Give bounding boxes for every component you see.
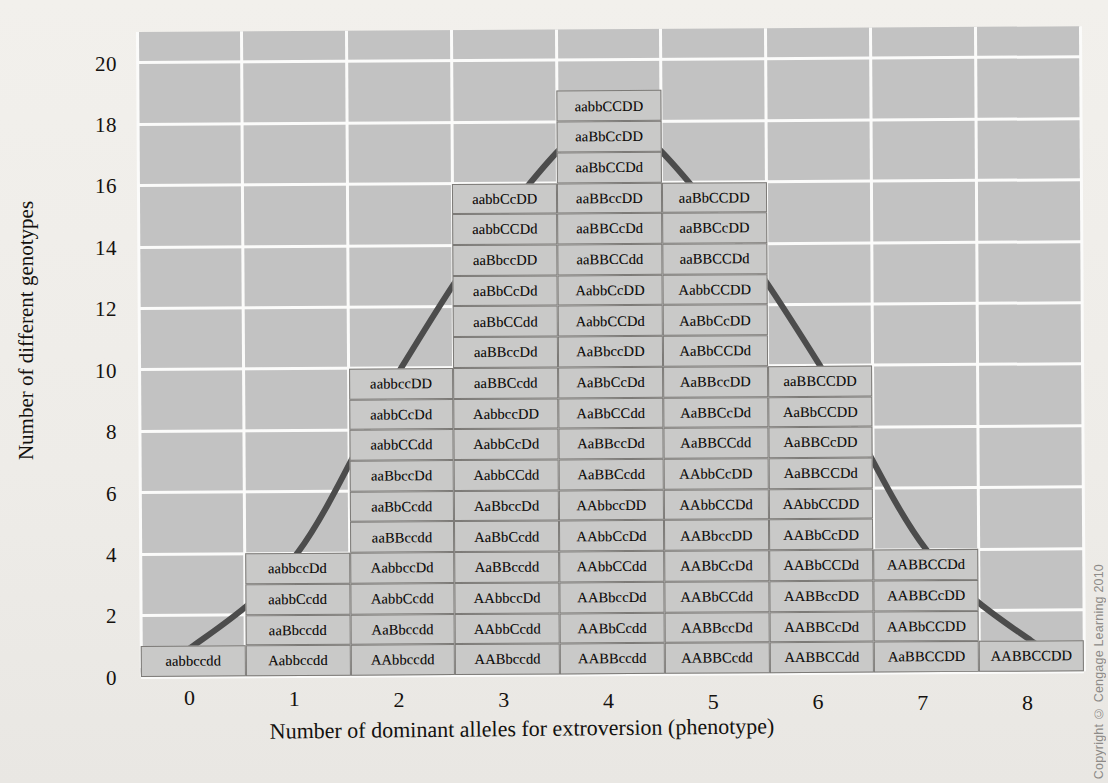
x-axis-tick-label: 1 [289, 686, 300, 712]
x-axis-tick-label: 3 [498, 687, 509, 713]
x-axis-tick-label: 4 [603, 688, 614, 714]
x-axis-tick-label: 6 [813, 689, 824, 715]
x-axis-tick-label: 5 [708, 689, 719, 715]
figure-container: aabbccddAabbccddaaBbccddaabbCcddaabbccDd… [0, 0, 1108, 783]
x-axis-tick-label: 8 [1022, 690, 1033, 716]
copyright-notice: Copyright © Cengage Learning 2010 [1092, 564, 1106, 779]
x-axis-ticks: 012345678 [0, 0, 1108, 783]
x-axis-tick-label: 0 [184, 685, 195, 711]
x-axis-tick-label: 2 [393, 687, 404, 713]
x-axis-tick-label: 7 [917, 690, 928, 716]
